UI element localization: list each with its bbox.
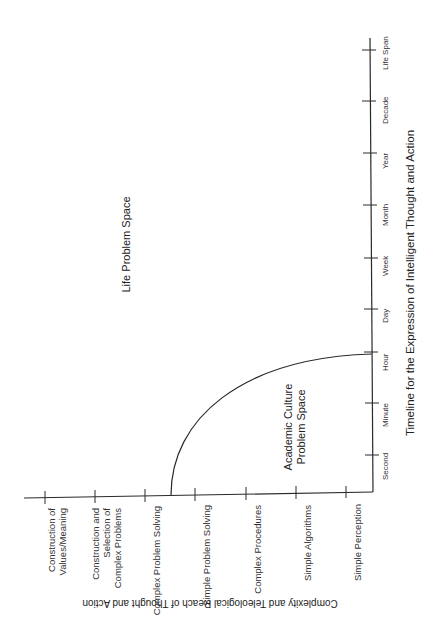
timeline-tick-label: Decade — [381, 96, 391, 124]
timeline-tick-label: Day — [381, 309, 391, 323]
label-line: Construction of — [46, 508, 57, 618]
timeline-tick-label: Hour — [381, 354, 391, 371]
complexity-axis-title: Complexity and Teleological Reach of Tho… — [60, 598, 360, 609]
timeline-tick-label: Year — [381, 153, 391, 169]
academic-boundary-arc — [171, 354, 372, 495]
life-problem-space-label: Life Problem Space — [120, 185, 133, 305]
timeline-axis-title: Timeline for the Expression of Intellige… — [404, 103, 416, 463]
timeline-tick-label: Second — [381, 453, 391, 480]
timeline-tick-label: Life Span — [381, 36, 391, 70]
academic-line2: Problem Space — [295, 367, 308, 487]
complexity-ticks — [45, 486, 346, 504]
academic-problem-space-label: Academic Culture Problem Space — [282, 367, 308, 487]
complexity-axis-line — [24, 492, 373, 498]
timeline-tick-label: Month — [381, 204, 391, 226]
timeline-tick-label: Week — [381, 256, 391, 276]
life-region-text: Life Problem Space — [120, 197, 132, 293]
timeline-axis-line — [370, 38, 373, 492]
academic-line1: Academic Culture — [282, 367, 295, 487]
timeline-tick-label: Minute — [381, 403, 391, 427]
